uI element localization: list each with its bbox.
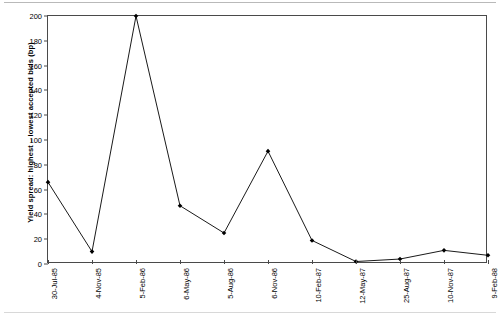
data-point-marker [178,203,183,208]
x-axis-tick-labels: 30-Jul-854-Nov-855-Feb-866-May-865-Aug-8… [47,268,487,314]
x-axis-tick-mark [400,260,401,264]
y-axis-tick-mark [44,90,48,91]
y-axis-tick-mark [44,115,48,116]
chart-figure: Yield spread: highest – lowest accepted … [0,0,498,314]
series-markers [46,14,491,264]
x-axis-tick-label: 5-Aug-86 [226,268,235,299]
x-axis-tick-label: 6-Nov-86 [270,268,279,299]
y-axis-tick-mark [44,140,48,141]
x-axis-tick-label: 25-Aug-87 [402,268,411,303]
x-axis-tick-label: 6-May-86 [182,268,191,300]
data-point-marker [222,231,227,236]
x-axis-tick-mark [312,260,313,264]
y-axis-tick-mark [44,65,48,66]
x-axis-tick-mark [444,260,445,264]
y-axis-tick-mark [44,239,48,240]
x-axis-tick-mark [136,260,137,264]
y-axis-tick-mark [44,40,48,41]
data-point-marker [310,238,315,243]
y-axis-tick-mark [44,16,48,17]
x-axis-tick-label: 9-Feb-88 [490,268,498,298]
x-axis-tick-mark [224,260,225,264]
x-axis-tick-label: 12-May-87 [358,268,367,304]
data-point-marker [266,149,271,154]
data-point-marker [486,253,491,258]
y-axis-tick-mark [44,164,48,165]
x-axis-tick-mark [488,260,489,264]
x-axis-tick-label: 5-Feb-86 [138,268,147,298]
y-axis-tick-mark [44,214,48,215]
x-axis-tick-mark [48,260,49,264]
data-point-marker [134,14,139,19]
y-axis-tick-mark [44,189,48,190]
x-axis-tick-mark [92,260,93,264]
top-divider-rule [4,2,496,3]
x-axis-tick-mark [356,260,357,264]
data-point-marker [442,248,447,253]
x-axis-tick-mark [268,260,269,264]
x-axis-tick-mark [180,260,181,264]
series-polyline [48,16,488,262]
line-series [48,16,488,264]
x-axis-tick-label: 10-Nov-87 [446,268,455,303]
x-axis-tick-label: 10-Feb-87 [314,268,323,303]
plot-area: 020406080100120140160180200 [47,15,487,263]
x-axis-tick-label: 30-Jul-85 [50,268,59,299]
x-axis-tick-label: 4-Nov-85 [94,268,103,299]
bottom-divider-rule [4,312,496,313]
